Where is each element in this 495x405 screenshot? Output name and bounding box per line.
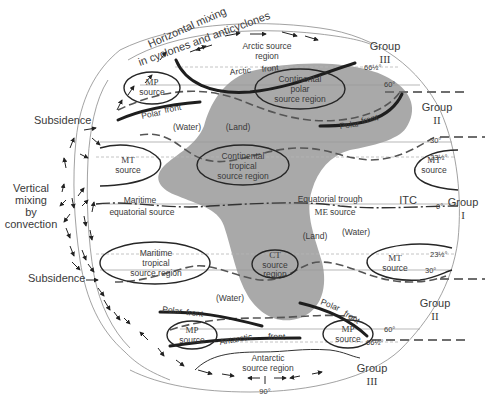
vertical-mixing-label: Vertical mixing by convection xyxy=(5,182,58,230)
svg-text:Group: Group xyxy=(370,40,401,52)
svg-text:23½°: 23½° xyxy=(430,250,448,259)
svg-text:front: front xyxy=(163,102,182,115)
water-east-label: (Water) xyxy=(342,227,370,237)
mt-west-north-label: MT source xyxy=(115,155,141,175)
svg-text:Antarctic: Antarctic xyxy=(251,353,285,363)
svg-text:region: region xyxy=(263,269,287,279)
svg-text:Group: Group xyxy=(420,297,451,309)
svg-text:source region: source region xyxy=(274,94,326,104)
mt-east-south-label: MT source xyxy=(382,253,408,273)
svg-text:Group: Group xyxy=(357,362,388,374)
svg-text:MT: MT xyxy=(388,253,402,263)
svg-text:Antarctic: Antarctic xyxy=(219,331,254,347)
svg-text:Arctic source: Arctic source xyxy=(242,41,291,51)
svg-text:Maritime: Maritime xyxy=(140,248,173,258)
svg-text:66½°: 66½° xyxy=(366,338,384,347)
svg-text:Polar: Polar xyxy=(162,304,183,316)
subsidence-top-label: Subsidence xyxy=(34,114,92,126)
svg-text:III: III xyxy=(367,375,378,387)
svg-text:polar: polar xyxy=(291,84,310,94)
svg-text:source region: source region xyxy=(242,363,294,373)
mixing-arrows-left xyxy=(60,128,130,324)
svg-text:source: source xyxy=(115,165,141,175)
svg-text:source: source xyxy=(382,263,408,273)
svg-text:II: II xyxy=(431,310,439,322)
svg-text:90°: 90° xyxy=(259,387,270,396)
svg-text:ME: ME xyxy=(315,207,329,217)
antarctic-source-label: Antarctic source region xyxy=(242,353,294,373)
group-iii-north: Group III xyxy=(370,40,401,65)
svg-text:MP: MP xyxy=(341,324,354,334)
svg-text:source: source xyxy=(179,335,205,345)
svg-text:convection: convection xyxy=(5,218,58,230)
svg-text:source: source xyxy=(335,334,361,344)
arctic-source-label: Arctic source region xyxy=(242,41,291,61)
svg-text:source region: source region xyxy=(130,268,182,278)
svg-text:Continental: Continental xyxy=(221,151,264,161)
svg-text:Maritime: Maritime xyxy=(124,195,157,205)
svg-text:MP: MP xyxy=(185,325,198,335)
maritime-tropical-label: Maritime tropical source region xyxy=(130,248,182,278)
svg-text:Vertical: Vertical xyxy=(13,182,49,194)
svg-text:Polar: Polar xyxy=(140,107,162,121)
svg-text:Group: Group xyxy=(448,196,479,208)
group-i: Group I xyxy=(448,196,479,221)
svg-text:by: by xyxy=(25,206,37,218)
svg-text:60°: 60° xyxy=(384,325,395,334)
svg-text:CT: CT xyxy=(269,250,281,260)
me-source-label: ME source xyxy=(315,207,356,217)
svg-text:60°: 60° xyxy=(384,80,395,89)
svg-text:MP: MP xyxy=(145,77,158,87)
svg-text:30°: 30° xyxy=(425,266,436,275)
itc-label: ITC xyxy=(399,194,417,206)
mp-south-west-label: MP source xyxy=(179,325,205,345)
svg-text:tropical: tropical xyxy=(142,258,170,268)
water-south-label: (Water) xyxy=(216,293,244,303)
mp-north-label: MP source xyxy=(139,77,165,97)
svg-text:66½°: 66½° xyxy=(364,63,382,72)
group-ii-north: Group II xyxy=(422,101,453,126)
horizontal-mixing-label: Horizontal mixing in cyclones and anticy… xyxy=(137,5,273,68)
svg-text:region: region xyxy=(255,51,279,61)
svg-text:source: source xyxy=(330,207,356,217)
air-mass-source-diagram: Horizontal mixing in cyclones and anticy… xyxy=(0,0,495,405)
water-nw-label: (Water) xyxy=(173,122,201,132)
svg-text:MT: MT xyxy=(427,155,441,165)
svg-text:mixing: mixing xyxy=(15,194,47,206)
land-north-label: (Land) xyxy=(226,122,251,132)
svg-text:Continental: Continental xyxy=(278,74,321,84)
svg-text:tropical: tropical xyxy=(229,161,257,171)
svg-text:front: front xyxy=(261,62,280,74)
group-iii-south: Group III xyxy=(357,362,388,387)
svg-text:30°: 30° xyxy=(430,136,441,145)
land-south-label: (Land) xyxy=(303,231,328,241)
svg-text:I: I xyxy=(461,209,465,221)
svg-text:source region: source region xyxy=(217,171,269,181)
antarctic-front-label: Antarctic front xyxy=(219,331,286,347)
svg-text:0°: 0° xyxy=(436,202,443,211)
equatorial-trough-label: Equatorial trough xyxy=(298,194,363,204)
group-ii-south: Group II xyxy=(420,297,451,322)
svg-text:source: source xyxy=(421,165,447,175)
svg-text:MT: MT xyxy=(121,155,135,165)
svg-text:source: source xyxy=(139,87,165,97)
svg-text:equatorial source: equatorial source xyxy=(109,207,174,217)
svg-text:Group: Group xyxy=(422,101,453,113)
svg-text:front: front xyxy=(186,307,205,319)
svg-text:front: front xyxy=(268,331,286,342)
subsidence-bottom-label: Subsidence xyxy=(28,272,86,284)
svg-text:II: II xyxy=(433,114,441,126)
